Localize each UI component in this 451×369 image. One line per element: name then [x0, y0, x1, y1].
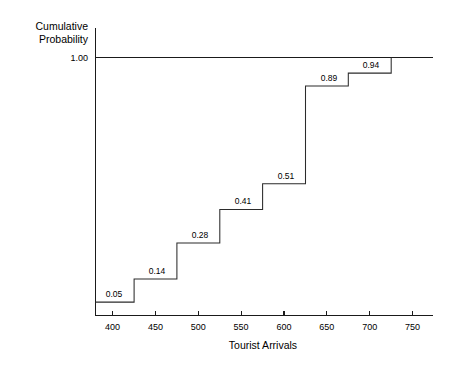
step-value-label-1: 0.05	[106, 289, 123, 299]
y-axis-title-line2: Probability	[39, 33, 89, 45]
step-value-label-5: 0.51	[278, 171, 295, 181]
x-tick-label-750: 750	[405, 322, 420, 332]
step-plot-svg: Cumulative Probability 1.00 400 450 500 …	[0, 0, 451, 369]
step-value-label-6: 0.89	[321, 73, 338, 83]
x-tick-label-650: 650	[319, 322, 334, 332]
x-tick-label-500: 500	[191, 322, 206, 332]
y-axis-title-line1: Cumulative	[35, 20, 88, 32]
x-axis-title: Tourist Arrivals	[229, 339, 297, 351]
step-value-label-7: 0.94	[363, 60, 380, 70]
step-value-label-2: 0.14	[149, 266, 166, 276]
x-tick-label-700: 700	[362, 322, 377, 332]
cumulative-probability-chart: Cumulative Probability 1.00 400 450 500 …	[0, 0, 451, 369]
x-tick-label-550: 550	[234, 322, 249, 332]
y-tick-label-1: 1.00	[70, 53, 88, 63]
step-value-label-3: 0.28	[192, 230, 209, 240]
x-tick-label-400: 400	[105, 322, 120, 332]
x-tick-label-450: 450	[148, 322, 163, 332]
step-value-label-4: 0.41	[235, 196, 252, 206]
cumulative-step-line	[96, 58, 392, 303]
x-tick-label-600: 600	[276, 322, 291, 332]
